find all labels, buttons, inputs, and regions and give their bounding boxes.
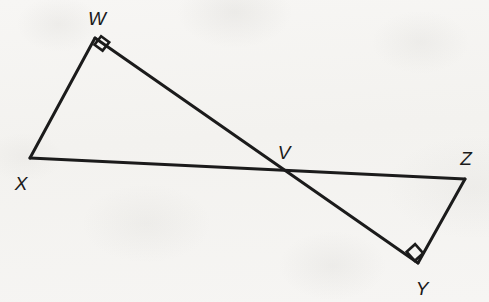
segment-group <box>30 38 465 263</box>
vertex-label-y: Y <box>416 279 429 298</box>
vertex-label-x: X <box>15 174 28 193</box>
segment-x-w <box>30 38 95 158</box>
vertex-label-v: V <box>278 143 291 162</box>
segment-x-z <box>30 158 465 179</box>
segment-w-y <box>95 38 418 263</box>
segment-z-y <box>418 179 465 263</box>
vertex-label-z: Z <box>460 149 472 168</box>
vertex-label-w: W <box>88 9 106 28</box>
geometry-figure: W X V Z Y <box>0 0 489 302</box>
diagram-canvas <box>0 0 489 302</box>
